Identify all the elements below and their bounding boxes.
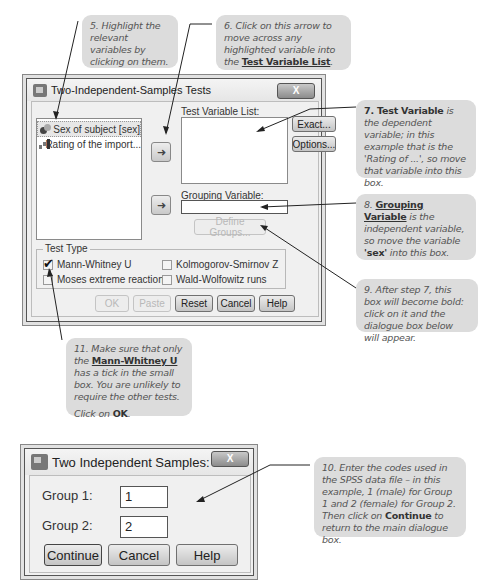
kolmogorov-smirnov-checkbox-row[interactable]: Kolmogorov-Smirnov Z	[162, 259, 278, 270]
annotation-step-7: 7. Test Variable is the dependent variab…	[356, 100, 476, 178]
mann-whitney-checkbox-row[interactable]: Mann-Whitney U	[43, 259, 131, 270]
mann-whitney-checkbox[interactable]	[43, 260, 53, 270]
annotation-step-6: 6. Click on this arrow to move across an…	[216, 15, 351, 70]
test-type-title: Test Type	[43, 243, 90, 254]
dialog-body: Group 1: 1 Group 2: 2 Continue Cancel He…	[29, 475, 251, 573]
annotation-text: has a tick in the small box. You are unl…	[74, 367, 180, 402]
move-to-test-variable-button[interactable]: ➜	[151, 142, 171, 162]
help-button[interactable]: Help	[259, 295, 295, 312]
options-button[interactable]: Options...	[292, 136, 336, 152]
annotation-bold-text: Test Variable List	[242, 56, 330, 67]
define-groups-dialog: Two Independent Samples: ... X Group 1: …	[24, 448, 254, 576]
wald-wolfowitz-checkbox[interactable]	[162, 275, 172, 285]
annotation-step-10: 10. Enter the codes used in the SPSS dat…	[314, 457, 466, 537]
nominal-variable-icon	[40, 124, 50, 134]
annotation-bold-text: Continue	[385, 510, 431, 521]
dialog-titlebar[interactable]: Two-Independent-Samples Tests X	[27, 79, 321, 101]
dialog-title: Two Independent Samples: ...	[52, 455, 224, 470]
annotation-text: Click on	[74, 408, 113, 419]
reset-button[interactable]: Reset	[175, 295, 213, 312]
variable-label: Sex of subject [sex]	[53, 124, 140, 135]
checkbox-label: Wald-Wolfowitz runs	[176, 274, 267, 285]
test-variable-list-label: Test Variable List:	[181, 106, 259, 117]
annotation-step-5: 5. Highlight the relevant variables by c…	[82, 15, 178, 68]
annotation-bold-text: Mann-Whitney U	[92, 355, 178, 366]
group-2-field[interactable]: 2	[120, 516, 168, 538]
annotation-text: 9. After step 7, this box will become bo…	[364, 284, 464, 343]
close-button[interactable]: X	[211, 451, 249, 467]
ok-button[interactable]: OK	[95, 295, 129, 312]
annotation-step-8: 8. Grouping Variable is the independent …	[356, 194, 476, 260]
wald-wolfowitz-checkbox-row[interactable]: Wald-Wolfowitz runs	[162, 274, 267, 285]
close-button[interactable]: X	[277, 83, 315, 99]
spss-app-icon	[31, 454, 48, 470]
right-arrow-icon: ➜	[157, 199, 166, 212]
right-arrow-icon: ➜	[157, 146, 166, 159]
scale-variable-icon	[39, 139, 42, 149]
move-to-grouping-variable-button[interactable]: ➜	[151, 195, 171, 215]
annotation-bold-text: OK	[113, 408, 128, 419]
two-independent-samples-dialog: Two-Independent-Samples Tests X Sex of s…	[26, 78, 322, 322]
dialog-body: Sex of subject [sex] Rating of the impor…	[31, 101, 319, 317]
checkbox-label: Mann-Whitney U	[57, 259, 131, 270]
moses-checkbox[interactable]	[43, 275, 53, 285]
group-1-field[interactable]: 1	[120, 486, 168, 508]
dialog-title: Two-Independent-Samples Tests	[51, 84, 211, 96]
moses-checkbox-row[interactable]: Moses extreme reactions	[43, 274, 169, 285]
spss-app-icon	[33, 84, 47, 97]
checkbox-label: Moses extreme reactions	[57, 274, 169, 285]
continue-button[interactable]: Continue	[44, 544, 102, 566]
annotation-text: .	[330, 56, 333, 67]
cancel-button[interactable]: Cancel	[108, 544, 170, 566]
test-variable-list[interactable]	[181, 117, 288, 184]
annotation-text: 5. Highlight the relevant variables by c…	[90, 20, 168, 67]
group-1-label: Group 1:	[42, 488, 93, 503]
annotation-bold-text: 'sex'	[364, 247, 387, 258]
source-variable-list[interactable]: Sex of subject [sex] Rating of the impor…	[36, 118, 142, 240]
annotation-bold-text: 7. Test Variable	[364, 105, 444, 116]
variable-label: Rating of the import...	[45, 139, 141, 150]
annotation-click-line: Click on OK.	[74, 408, 184, 420]
grouping-variable-field[interactable]	[181, 200, 288, 214]
test-type-group: Test Type Mann-Whitney U Kolmogorov-Smir…	[36, 249, 286, 289]
annotation-text: 8.	[364, 199, 375, 210]
annotation-step-11: 11. Make sure that only the Mann-Whitney…	[66, 338, 192, 416]
define-groups-button[interactable]: Define Groups...	[194, 219, 266, 235]
dialog-titlebar[interactable]: Two Independent Samples: ... X	[25, 449, 253, 475]
checkbox-label: Kolmogorov-Smirnov Z	[176, 259, 278, 270]
help-button[interactable]: Help	[176, 544, 238, 566]
kolmogorov-smirnov-checkbox[interactable]	[162, 260, 172, 270]
group-2-label: Group 2:	[42, 518, 93, 533]
cancel-button[interactable]: Cancel	[217, 295, 255, 312]
exact-button[interactable]: Exact...	[292, 116, 336, 132]
variable-item-rating[interactable]: Rating of the import...	[37, 137, 141, 151]
paste-button[interactable]: Paste	[133, 295, 171, 312]
annotation-text: is the dependent variable; in this examp…	[364, 105, 466, 188]
variable-item-sex[interactable]: Sex of subject [sex]	[37, 121, 141, 137]
annotation-step-9: 9. After step 7, this box will become bo…	[356, 279, 478, 332]
annotation-text: into this box.	[387, 247, 449, 258]
annotation-text: .	[128, 408, 131, 419]
